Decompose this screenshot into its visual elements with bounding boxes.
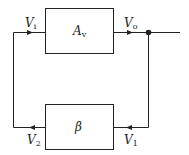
beta-label: β <box>74 120 82 134</box>
junction-node-icon <box>146 30 152 36</box>
input-wire <box>14 33 46 128</box>
feedback-out-label: V2 <box>27 133 41 148</box>
feedback-in-label: V1 <box>124 133 138 148</box>
amplifier-label: Av <box>72 24 87 39</box>
diagram-canvas: Vi Vo Av β V2 V1 <box>0 0 189 155</box>
arrow-right-icon <box>27 30 33 35</box>
feedback-wire-in <box>114 33 149 128</box>
feedback-diagram: Vi Vo Av β V2 V1 <box>0 0 189 155</box>
arrow-left-icon <box>29 125 35 130</box>
input-label: Vi <box>25 16 37 31</box>
arrow-left-icon <box>126 125 132 130</box>
output-label: Vo <box>124 16 138 31</box>
